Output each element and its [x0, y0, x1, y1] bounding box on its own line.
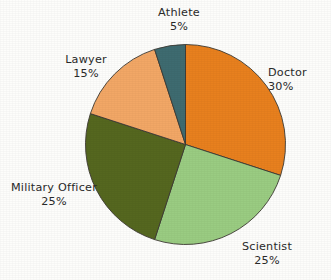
pie-label-doctor-name: Doctor [268, 66, 330, 80]
pie-label-military-officer-name: Military Officer [2, 181, 106, 195]
pie-label-athlete: Athlete 5% [133, 6, 225, 33]
pie-label-athlete-name: Athlete [133, 6, 225, 20]
pie-label-scientist: Scientist 25% [222, 240, 312, 267]
pie-label-doctor: Doctor 30% [268, 66, 330, 93]
pie-label-lawyer-name: Lawyer [52, 53, 120, 67]
pie-label-doctor-value: 30% [268, 80, 330, 94]
pie-label-lawyer-value: 15% [52, 67, 120, 81]
pie-label-scientist-name: Scientist [222, 240, 312, 254]
pie-chart-svg [0, 0, 331, 280]
pie-chart: Doctor 30% Scientist 25% Military Office… [0, 0, 331, 280]
pie-label-military-officer: Military Officer 25% [2, 181, 106, 208]
pie-label-athlete-value: 5% [133, 20, 225, 34]
pie-label-lawyer: Lawyer 15% [52, 53, 120, 80]
pie-label-scientist-value: 25% [222, 254, 312, 268]
pie-label-military-officer-value: 25% [2, 195, 106, 209]
